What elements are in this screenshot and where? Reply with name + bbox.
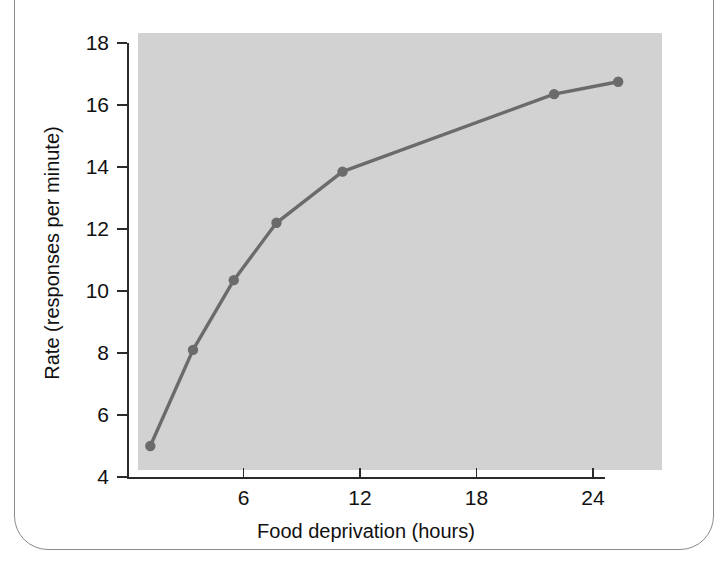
y-axis-title: Rate (responses per minute) bbox=[42, 38, 62, 468]
series-line bbox=[150, 82, 618, 446]
x-axis-title: Food deprivation (hours) bbox=[127, 521, 605, 541]
data-point-marker bbox=[337, 166, 347, 176]
data-point-marker bbox=[549, 89, 559, 99]
data-point-marker bbox=[271, 218, 281, 228]
data-point-marker bbox=[145, 441, 155, 451]
data-point-marker bbox=[613, 77, 623, 87]
data-point-marker bbox=[229, 275, 239, 285]
data-point-marker bbox=[188, 345, 198, 355]
